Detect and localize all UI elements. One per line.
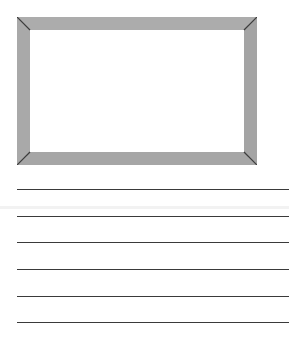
writing-lines — [17, 0, 289, 344]
writing-line-1[interactable] — [17, 189, 289, 190]
writing-line-2[interactable] — [17, 216, 289, 217]
writing-line-4[interactable] — [17, 269, 289, 270]
writing-line-5[interactable] — [17, 296, 289, 297]
writing-line-3[interactable] — [17, 242, 289, 243]
writing-line-6[interactable] — [17, 322, 289, 323]
